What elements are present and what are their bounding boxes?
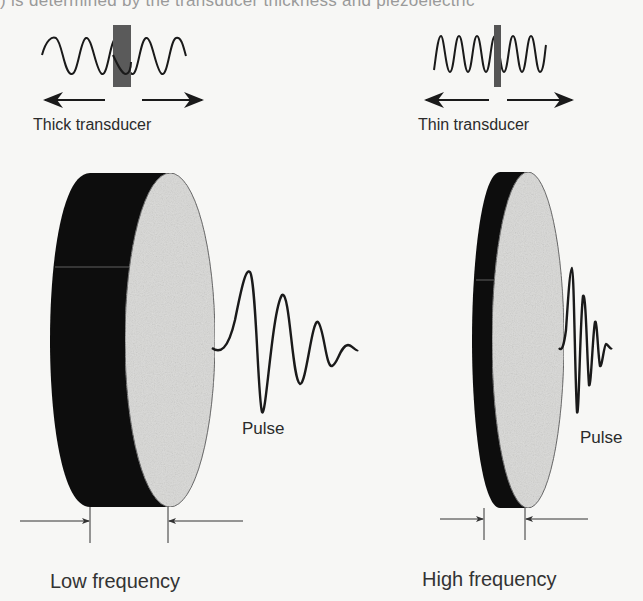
- thin-element-marker: [494, 25, 501, 87]
- low-frequency-pulse-wave: [212, 271, 358, 412]
- thick-disk-face: [125, 173, 215, 507]
- thick-transducer-disk: [50, 173, 215, 507]
- thin-dimension-markers: [440, 508, 588, 540]
- low-frequency-label: Low frequency: [50, 570, 180, 593]
- transducer-diagram: [0, 0, 643, 601]
- high-frequency-pulse-wave: [559, 268, 612, 412]
- thin-disk-face: [492, 172, 564, 508]
- thin-transducer-disk: [472, 172, 564, 508]
- thick-element-marker: [113, 25, 131, 87]
- thick-standing-wave-icon: [42, 25, 186, 87]
- thick-dimension-markers: [20, 507, 243, 543]
- thin-transducer-label: Thin transducer: [418, 116, 529, 134]
- left-pulse-label: Pulse: [242, 419, 285, 439]
- high-frequency-label: High frequency: [422, 568, 557, 591]
- thin-standing-wave-icon: [434, 25, 546, 87]
- right-pulse-label: Pulse: [580, 428, 623, 448]
- thick-transducer-label: Thick transducer: [33, 116, 151, 134]
